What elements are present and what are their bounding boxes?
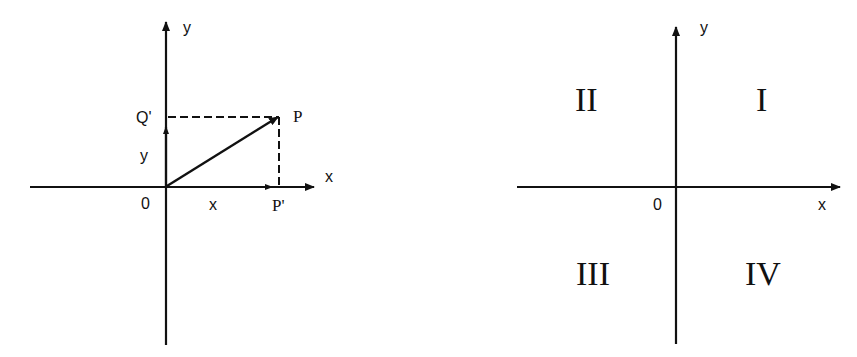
left-y-axis-label: y xyxy=(183,19,191,36)
vector-op-arrow xyxy=(167,117,278,186)
point-q-prime-label: Q' xyxy=(136,109,152,126)
point-p-label: P xyxy=(293,107,302,126)
quadrant-iii-label: III xyxy=(576,255,610,292)
x-component-label: x xyxy=(209,196,217,213)
y-component-label: y xyxy=(140,147,148,164)
right-y-axis-label: y xyxy=(700,19,708,36)
quadrant-iv-label: IV xyxy=(745,255,781,292)
left-x-axis-label: x xyxy=(325,168,333,185)
left-origin-label: 0 xyxy=(141,195,150,212)
right-origin-label: 0 xyxy=(653,196,662,213)
left-vector-diagram: y x 0 P P' Q' x y xyxy=(30,19,333,345)
point-p-prime-label: P' xyxy=(272,196,285,215)
right-x-axis-label: x xyxy=(818,196,826,213)
right-quadrant-diagram: y x 0 II I III IV xyxy=(517,19,840,344)
quadrant-ii-label: II xyxy=(575,81,598,118)
coordinate-diagrams: y x 0 P P' Q' x y y x 0 II I III IV xyxy=(0,0,857,357)
quadrant-i-label: I xyxy=(756,81,767,118)
